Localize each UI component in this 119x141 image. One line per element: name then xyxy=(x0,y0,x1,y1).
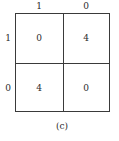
cell-r1-c0: 4 xyxy=(80,33,92,43)
row-header-0: 0 xyxy=(2,83,14,93)
cell-r0-c1: 4 xyxy=(33,83,45,93)
matrix-grid xyxy=(15,13,110,112)
cell-r1-c1: 0 xyxy=(33,33,45,43)
column-header-1: 1 xyxy=(33,1,45,11)
row-header-1: 1 xyxy=(2,33,14,43)
cell-r0-c0: 0 xyxy=(80,83,92,93)
column-header-0: 0 xyxy=(80,1,92,11)
figure-caption: (c) xyxy=(50,121,74,131)
horizontal-divider xyxy=(16,63,109,64)
